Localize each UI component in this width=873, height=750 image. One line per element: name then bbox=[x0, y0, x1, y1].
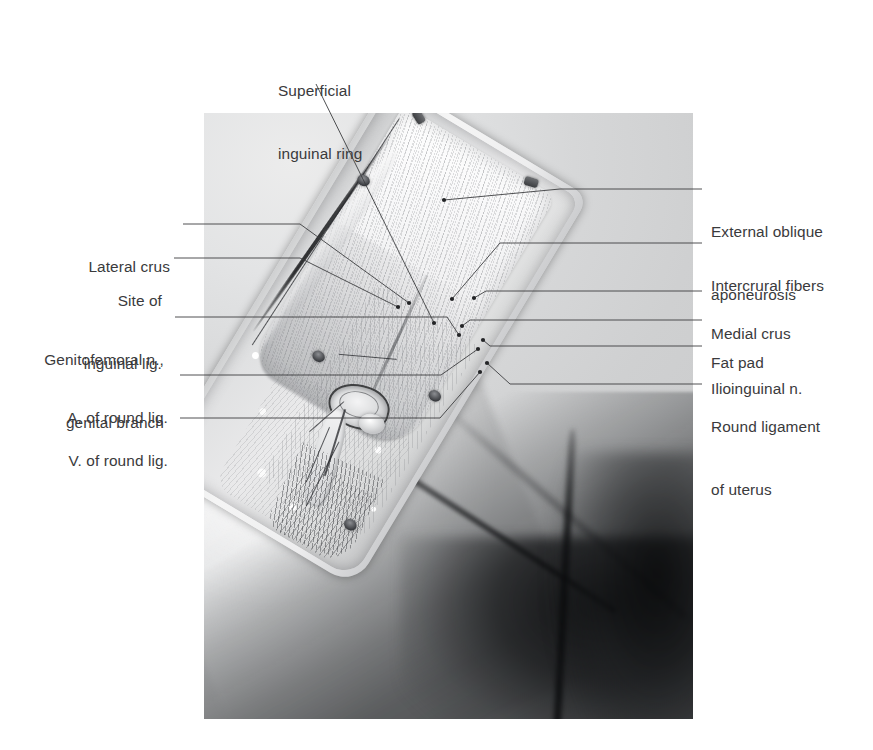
label-round-ligament-of-uterus: Round ligament of uterus bbox=[711, 374, 820, 542]
label-v-of-round-lig-line1: V. of round lig. bbox=[0, 450, 168, 471]
right-shadow bbox=[527, 452, 693, 719]
label-superficial-inguinal-ring-line1: Superficial bbox=[278, 80, 362, 101]
label-superficial-inguinal-ring: Superficial inguinal ring bbox=[278, 38, 362, 206]
label-round-ligament-of-uterus-line2: of uterus bbox=[711, 479, 820, 500]
label-v-of-round-lig: V. of round lig. bbox=[0, 408, 168, 513]
label-round-ligament-of-uterus-line1: Round ligament bbox=[711, 416, 820, 437]
label-superficial-inguinal-ring-line2: inguinal ring bbox=[278, 143, 362, 164]
anatomy-figure: Superficial inguinal ring Lateral crus S… bbox=[0, 0, 873, 750]
